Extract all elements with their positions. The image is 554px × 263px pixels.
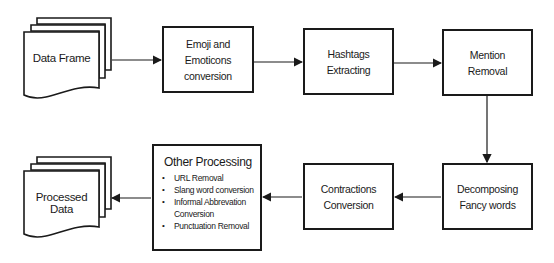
list-item: Slang word conversion [162, 184, 254, 196]
node-emoji-conversion: Emoji and Emoticons conversion [162, 26, 254, 93]
node-other-processing: Other Processing URL Removal Slang word … [152, 144, 262, 251]
node-decomposing-fancy-words: Decomposing Fancy words [442, 163, 533, 230]
list-item: URL Removal [162, 172, 254, 184]
node-processed-data: Processed Data [24, 191, 99, 215]
list-item: Punctuation Removal [162, 220, 254, 232]
node-hashtags-extracting: Hashtags Extracting [303, 28, 394, 95]
list-item: Informal Abbrevation Conversion [162, 196, 254, 220]
other-processing-title: Other Processing [164, 154, 252, 170]
node-contractions-conversion: Contractions Conversion [303, 163, 394, 230]
other-processing-list: URL Removal Slang word conversion Inform… [162, 172, 254, 232]
node-mention-removal: Mention Removal [442, 29, 533, 96]
node-data-frame: Data Frame [24, 52, 99, 64]
